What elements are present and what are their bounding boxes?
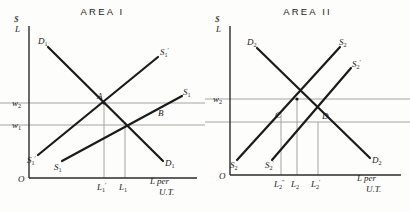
svg-text:L1′: L1′	[96, 181, 107, 193]
xtick-L2-double-prime: L2″	[273, 178, 285, 190]
figure-two-area-labor-market: AREA I $ L L per U.T. O	[0, 0, 410, 212]
y-axis-label-currency: $	[14, 14, 19, 24]
svg-text:S2: S2	[339, 37, 347, 48]
svg-text:L2: L2	[290, 179, 299, 190]
ytick-w1: w1	[12, 120, 21, 131]
svg-text:w2: w2	[12, 98, 21, 109]
point-label-c: C	[275, 110, 282, 120]
panel-area-1: AREA I $ L L per U.T. O	[0, 0, 205, 212]
svg-text:w2: w2	[213, 94, 222, 105]
origin-label: O	[219, 171, 226, 181]
svg-text:S2′: S2′	[352, 58, 362, 70]
svg-text:D2: D2	[246, 37, 257, 48]
xtick-L1: L1	[118, 182, 127, 193]
curve-label-s2-prime-top: S2′	[352, 58, 362, 70]
curve-supply-s2-prime	[272, 68, 351, 160]
svg-text:D1: D1	[164, 158, 175, 169]
point-label-b: B	[158, 108, 164, 118]
panel-1-plot: $ L L per U.T. O w2 w1 L1′ L1 D1	[0, 0, 205, 212]
x-axis-label-bottom: U.T.	[159, 187, 174, 197]
x-axis-label-top: L per	[356, 173, 377, 183]
curve-label-s2-bottom: S2	[230, 160, 238, 171]
svg-text:L2′: L2′	[310, 178, 321, 190]
y-axis-label-l: L	[14, 24, 20, 34]
svg-text:S2: S2	[230, 160, 238, 171]
xtick-L2: L2	[290, 179, 299, 190]
origin-label: O	[18, 174, 25, 184]
svg-text:w1: w1	[12, 120, 21, 131]
ytick-w2: w2	[213, 94, 222, 105]
panel-2-plot: $ L L per U.T. O w2 L2″ L2 L2′ D2	[205, 0, 410, 212]
svg-text:S2′: S2′	[265, 159, 275, 171]
curve-label-s1-right: S1	[183, 87, 191, 98]
svg-text:L2″: L2″	[273, 178, 285, 190]
svg-text:S1′: S1′	[27, 154, 37, 166]
y-axis-label-currency: $	[215, 14, 220, 24]
svg-text:D1: D1	[37, 36, 48, 47]
panel-area-2: AREA II $ L L per U.T. O	[205, 0, 410, 212]
point-label-a: A	[96, 91, 103, 101]
curve-label-d1-top: D1	[37, 36, 48, 47]
x-axis-label-bottom: U.T.	[366, 184, 381, 194]
y-axis-label-l: L	[215, 24, 221, 34]
curve-label-s1-bottom: S1	[54, 162, 62, 173]
svg-text:L1: L1	[118, 182, 127, 193]
point-marker-equilibrium	[295, 97, 298, 100]
x-axis-label-top: L per	[149, 176, 170, 186]
ytick-w2: w2	[12, 98, 21, 109]
curve-label-s2-top: S2	[339, 37, 347, 48]
curve-supply-s2	[237, 47, 340, 160]
point-marker-a	[102, 101, 105, 104]
curve-supply-s1	[62, 96, 182, 161]
curve-label-s2-prime-bottom: S2′	[265, 159, 275, 171]
svg-text:S1′: S1′	[160, 46, 170, 58]
xtick-L2-prime: L2′	[310, 178, 321, 190]
curve-demand-d1	[48, 47, 163, 161]
svg-text:S1: S1	[54, 162, 62, 173]
curve-label-d1-bottom: D1	[164, 158, 175, 169]
svg-text:D2: D2	[371, 155, 382, 166]
curve-label-d2-bottom: D2	[371, 155, 382, 166]
svg-text:S1: S1	[183, 87, 191, 98]
curve-label-s1-prime-top: S1′	[160, 46, 170, 58]
curve-label-s1-prime-bottom: S1′	[27, 154, 37, 166]
point-label-d: D	[321, 111, 329, 121]
xtick-L1-prime: L1′	[96, 181, 107, 193]
curve-label-d2-top: D2	[246, 37, 257, 48]
